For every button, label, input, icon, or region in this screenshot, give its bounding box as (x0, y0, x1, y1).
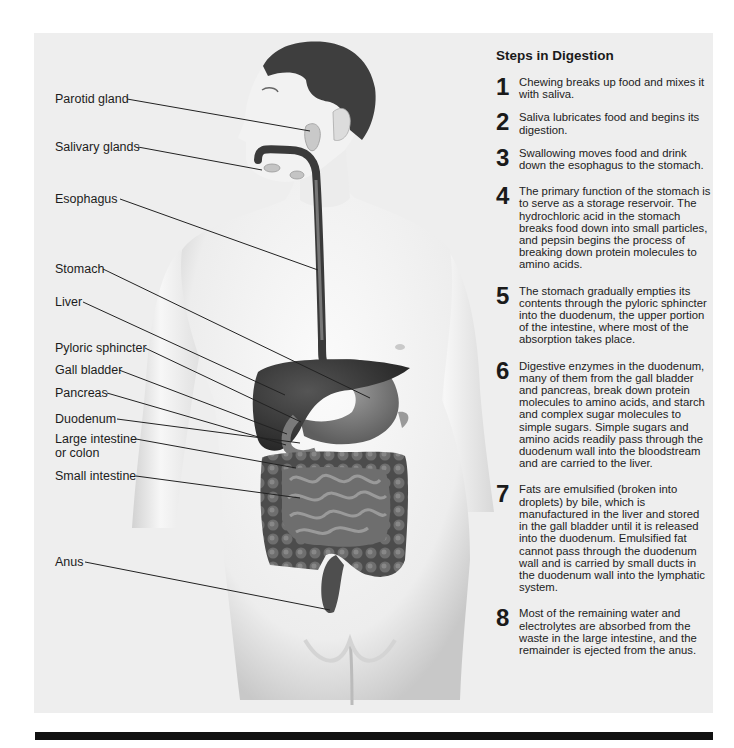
step-3: 3 Swallowing moves food and drink down t… (496, 147, 711, 171)
label-pyloric-sphincter: Pyloric sphincter (55, 341, 147, 355)
step-text: Most of the remaining water and electrol… (519, 607, 697, 656)
bottom-rule (35, 732, 713, 740)
label-parotid-gland: Parotid gland (55, 92, 129, 106)
steps-in-digestion: Steps in Digestion 1 Chewing breaks up f… (496, 48, 711, 656)
step-7: 7 Fats are emulsified (broken into dropl… (496, 483, 711, 593)
step-text: Digestive enzymes in the duodenum, many … (519, 360, 705, 470)
label-pancreas: Pancreas (55, 386, 108, 400)
step-text: Fats are emulsified (broken into droplet… (519, 483, 705, 593)
label-liver: Liver (55, 295, 82, 309)
step-4: 4 The primary function of the stomach is… (496, 185, 711, 270)
step-2: 2 Saliva lubricates food and begins its … (496, 111, 711, 135)
step-8: 8 Most of the remaining water and electr… (496, 607, 711, 656)
label-duodenum: Duodenum (55, 412, 116, 426)
step-text: The stomach gradually empties its conten… (519, 285, 707, 346)
steps-title: Steps in Digestion (496, 48, 711, 63)
label-large-intestine-line2: or colon (55, 446, 99, 460)
step-number: 3 (496, 146, 509, 170)
step-5: 5 The stomach gradually empties its cont… (496, 285, 711, 346)
step-1: 1 Chewing breaks up food and mixes it wi… (496, 76, 711, 100)
step-text: The primary function of the stomach is t… (519, 185, 711, 270)
label-small-intestine: Small intestine (55, 469, 136, 483)
step-number: 6 (496, 359, 509, 383)
step-text: Chewing breaks up food and mixes it with… (519, 76, 704, 100)
label-gall-bladder: Gall bladder (55, 363, 122, 377)
step-number: 1 (496, 75, 509, 99)
label-esophagus: Esophagus (55, 192, 118, 206)
step-number: 2 (496, 110, 509, 134)
step-number: 4 (496, 184, 509, 208)
step-6: 6 Digestive enzymes in the duodenum, man… (496, 360, 711, 470)
label-stomach: Stomach (55, 262, 104, 276)
step-text: Saliva lubricates food and begins its di… (519, 111, 699, 135)
step-number: 8 (496, 606, 509, 630)
label-salivary-glands: Salivary glands (55, 140, 140, 154)
label-anus: Anus (55, 555, 84, 569)
step-number: 7 (496, 482, 509, 506)
step-number: 5 (496, 284, 509, 308)
step-text: Swallowing moves food and drink down the… (519, 147, 704, 171)
label-large-intestine: Large intestine (55, 432, 137, 446)
